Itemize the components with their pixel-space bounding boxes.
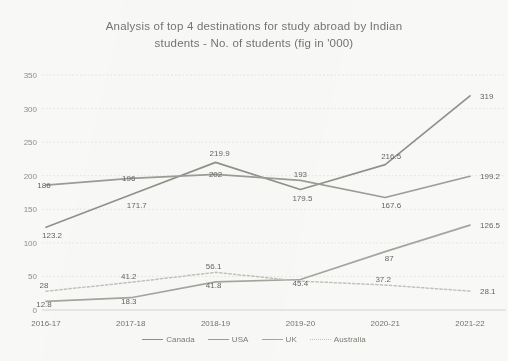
chart-screenshot: Analysis of top 4 destinations for study… (0, 0, 508, 361)
legend-swatch-uk-icon (262, 339, 283, 340)
data-label-uk-2016-17: 12.8 (36, 300, 52, 309)
data-label-australia-2016-17: 28 (40, 281, 49, 290)
data-label-uk-2018-19: 41.8 (206, 281, 222, 290)
x-axis-tick-label: 2019-20 (286, 319, 316, 328)
data-label-usa-2019-20: 193 (294, 170, 308, 179)
legend-swatch-canada-icon (142, 339, 163, 340)
y-axis-tick-label: 300 (24, 105, 38, 114)
y-axis-tick-labels: 050100150200250300350 (24, 71, 38, 315)
data-label-canada-2018-19: 219.9 (210, 149, 231, 158)
x-axis-tick-label: 2018-19 (201, 319, 231, 328)
data-label-australia-2018-19: 56.1 (206, 262, 222, 271)
data-label-usa-2016-17: 186 (37, 181, 51, 190)
y-axis-tick-label: 50 (28, 272, 37, 281)
data-label-uk-2020-21: 87 (385, 254, 394, 263)
line-chart-plot: 050100150200250300350 2016-172017-182018… (0, 0, 508, 361)
x-axis-tick-label: 2016-17 (31, 319, 61, 328)
series-line-australia (46, 272, 470, 291)
data-label-uk-2017-18: 18.3 (121, 297, 137, 306)
x-axis-tick-labels: 2016-172017-182018-192019-202020-212021-… (31, 319, 485, 328)
data-label-canada-2020-21: 216.5 (381, 152, 402, 161)
data-label-australia-2021-22: 28.1 (480, 287, 496, 296)
y-axis-tick-label: 200 (24, 172, 38, 181)
series-lines-group (46, 96, 470, 302)
gridlines-group (42, 75, 506, 310)
data-label-canada-2019-20: 179.5 (292, 194, 313, 203)
data-label-canada-2017-18: 171.7 (127, 201, 148, 210)
data-label-australia-2020-21: 37.2 (375, 275, 391, 284)
series-line-usa (46, 174, 470, 197)
data-label-usa-2018-19: 202 (209, 170, 223, 179)
data-label-usa-2017-18: 196 (122, 174, 136, 183)
data-label-uk-2021-22: 126.5 (480, 221, 501, 230)
legend-swatch-usa-icon (208, 339, 229, 340)
series-line-canada (46, 96, 470, 227)
x-axis-tick-label: 2017-18 (116, 319, 146, 328)
legend-label: UK (286, 335, 297, 344)
legend-item-uk[interactable]: UK (262, 335, 297, 344)
legend-label: Canada (166, 335, 195, 344)
x-axis-tick-label: 2021-22 (455, 319, 485, 328)
data-label-usa-2021-22: 199.2 (480, 172, 501, 181)
y-axis-tick-label: 250 (24, 138, 38, 147)
series-line-uk (46, 225, 470, 301)
legend-label: Australia (334, 335, 366, 344)
x-axis-tick-label: 2020-21 (371, 319, 401, 328)
data-label-uk-2019-20: 45.4 (293, 279, 309, 288)
legend-item-australia[interactable]: Australia (310, 335, 366, 344)
y-axis-tick-label: 100 (24, 239, 38, 248)
chart-legend: CanadaUSAUKAustralia (0, 335, 508, 344)
legend-item-canada[interactable]: Canada (142, 335, 195, 344)
legend-item-usa[interactable]: USA (208, 335, 249, 344)
y-axis-tick-label: 150 (24, 205, 38, 214)
data-label-canada-2021-22: 319 (480, 92, 494, 101)
y-axis-tick-label: 350 (24, 71, 38, 80)
legend-swatch-australia-icon (310, 339, 331, 340)
data-label-usa-2020-21: 167.6 (381, 201, 402, 210)
data-label-australia-2017-18: 41.2 (121, 272, 137, 281)
data-label-canada-2016-17: 123.2 (42, 231, 63, 240)
legend-label: USA (232, 335, 249, 344)
